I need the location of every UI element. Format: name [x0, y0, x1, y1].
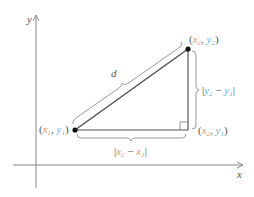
hypotenuse-bracket [73, 42, 182, 124]
point-2-label: (x2, y2) [189, 33, 219, 47]
point-1-label: (x1, y1) [39, 123, 69, 137]
x-axis-label: x [236, 168, 242, 180]
point-1-dot [72, 127, 77, 132]
point-2-dot [185, 46, 190, 51]
distance-label: d [111, 67, 117, 79]
distance-formula-diagram: y x d (x2, y2) (x1, y1) (x2, y1) [0, 0, 254, 197]
vertical-distance-label: |y2 − y1| [202, 84, 235, 98]
horizontal-distance-label: |x2 − x1| [114, 145, 147, 159]
y-axis [33, 15, 39, 188]
right-angle-marker [180, 122, 188, 130]
corner-point-label: (x2, y1) [198, 124, 228, 138]
vertical-bracket [192, 51, 199, 129]
horizontal-bracket [77, 134, 186, 141]
y-axis-label: y [26, 13, 32, 25]
x-axis [13, 162, 243, 168]
right-triangle [75, 49, 188, 130]
diagram-canvas: y x d (x2, y2) (x1, y1) (x2, y1) [0, 0, 254, 197]
